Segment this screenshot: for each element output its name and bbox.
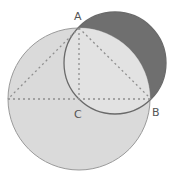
geometry-diagram: A B C (0, 0, 173, 177)
point-label-B: B (152, 106, 160, 119)
point-label-C: C (74, 108, 82, 121)
point-label-A: A (74, 10, 82, 23)
